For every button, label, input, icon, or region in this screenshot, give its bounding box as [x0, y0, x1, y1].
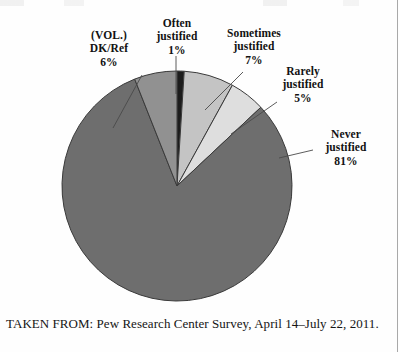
slice-label-often: Often justified 1%: [146, 17, 208, 57]
slice-label-often-line2: justified: [156, 30, 197, 42]
slice-label-sometimes: Sometimes justified 7%: [214, 27, 294, 67]
slice-label-never-line2: justified: [325, 141, 366, 153]
pie-chart: (VOL.) DK/Ref 6% Often justified 1% Some…: [0, 0, 399, 304]
slice-label-sometimes-line2: justified: [233, 40, 274, 52]
pie-slices: [62, 71, 292, 301]
figure-page: (VOL.) DK/Ref 6% Often justified 1% Some…: [0, 0, 399, 352]
slice-label-often-line1: Often: [163, 17, 192, 29]
slice-label-never-line1: Never: [331, 128, 361, 140]
slice-label-dkref-pct: 6%: [78, 56, 140, 69]
slice-label-dkref-line1: (VOL.): [91, 29, 127, 41]
slice-label-dkref-line2: DK/Ref: [90, 42, 128, 54]
slice-label-rarely-line1: Rarely: [286, 65, 320, 77]
slice-label-rarely-pct: 5%: [268, 92, 338, 105]
slice-label-never: Never justified 81%: [310, 128, 382, 168]
figure-caption: TAKEN FROM: Pew Research Center Survey, …: [6, 316, 392, 332]
slice-label-often-pct: 1%: [146, 44, 208, 57]
slice-label-never-pct: 81%: [310, 155, 382, 168]
slice-label-sometimes-line1: Sometimes: [227, 27, 281, 39]
slice-label-dkref: (VOL.) DK/Ref 6%: [78, 29, 140, 69]
slice-label-rarely-line2: justified: [282, 78, 323, 90]
slice-label-rarely: Rarely justified 5%: [268, 65, 338, 105]
